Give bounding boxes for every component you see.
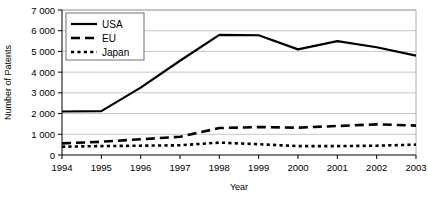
legend-label-japan: Japan: [102, 47, 129, 58]
series-line-japan: [62, 143, 416, 147]
y-tick-label: 0: [50, 150, 55, 161]
x-tick-label: 1997: [169, 162, 190, 173]
x-tick-label: 1999: [248, 162, 269, 173]
legend-label-eu: EU: [102, 33, 116, 44]
y-tick-label: 1 000: [31, 129, 55, 140]
legend-label-usa: USA: [102, 19, 123, 30]
x-tick-label: 2002: [366, 162, 387, 173]
x-tick-label: 2001: [327, 162, 348, 173]
x-tick-label: 1996: [130, 162, 151, 173]
y-tick-label: 4 000: [31, 67, 55, 78]
y-tick-label: 2 000: [31, 108, 55, 119]
series-line-eu: [62, 124, 416, 143]
x-axis-title: Year: [230, 182, 248, 192]
x-tick-label: 2000: [287, 162, 308, 173]
y-axis-title: Number of Patents: [3, 44, 13, 120]
x-tick-label: 1998: [209, 162, 230, 173]
y-tick-label: 5 000: [31, 46, 55, 57]
y-tick-label: 3 000: [31, 87, 55, 98]
chart-canvas: 01 0002 0003 0004 0005 0006 0007 0001994…: [0, 0, 428, 199]
patents-line-chart: 01 0002 0003 0004 0005 0006 0007 0001994…: [0, 0, 428, 199]
x-tick-label: 2003: [405, 162, 426, 173]
y-tick-label: 6 000: [31, 25, 55, 36]
x-tick-label: 1995: [91, 162, 112, 173]
x-tick-label: 1994: [51, 162, 72, 173]
y-tick-label: 7 000: [31, 5, 55, 16]
